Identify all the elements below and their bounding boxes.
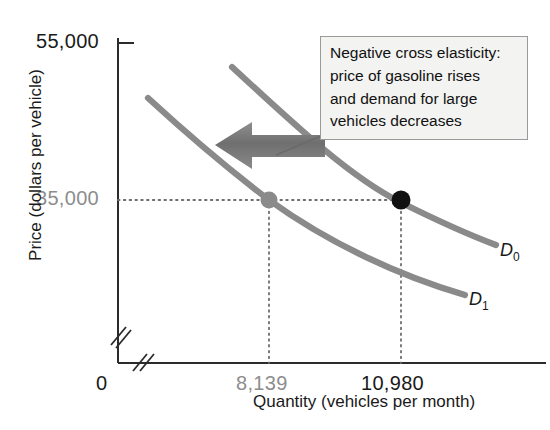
x-axis-origin-label: 0 [96,372,107,395]
x-axis-title: Quantity (vehicles per month) [253,392,475,412]
curve-label-d0: D0 [500,240,520,264]
callout-line-4: vehicles decreases [330,110,519,133]
callout-line-3: and demand for large [330,88,519,111]
callout-line-2: price of gasoline rises [330,65,519,88]
curve-label-d0-subscript: 0 [513,250,520,264]
y-axis-tick-label-high: 55,000 [36,30,99,53]
callout-box: Negative cross elasticity: price of gaso… [320,36,528,140]
curve-label-d1-subscript: 1 [482,299,489,313]
point-new-quantity [261,192,278,209]
shift-arrow-icon [215,122,325,169]
callout-line-1: Negative cross elasticity: [330,42,519,65]
point-original-quantity [392,191,411,210]
curve-label-d0-letter: D [500,240,513,260]
curve-label-d1: D1 [469,289,489,313]
y-axis-title: Price (dollars per vehicle) [26,55,46,275]
y-axis-break-icon [111,327,131,348]
chart-canvas: 55,000 35,000 0 8,139 10,980 Price (doll… [0,0,550,430]
curve-label-d1-letter: D [469,289,482,309]
